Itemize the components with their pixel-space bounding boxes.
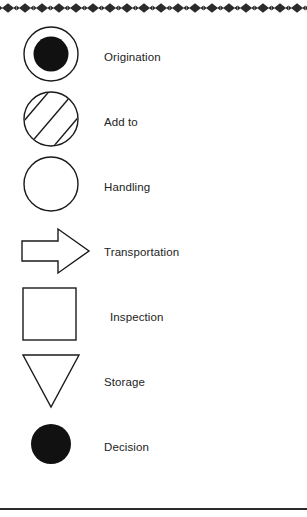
- legend-row: Storage: [0, 349, 307, 414]
- add-to-symbol: [18, 89, 96, 154]
- legend-label: Add to: [104, 89, 138, 154]
- legend-row: Decision: [0, 414, 307, 479]
- origination-symbol: [18, 24, 96, 89]
- inspection-symbol: [18, 284, 96, 349]
- legend-label: Decision: [104, 414, 149, 479]
- legend-row: Transportation: [0, 219, 307, 284]
- legend-label: Origination: [104, 24, 161, 89]
- transportation-symbol: [18, 219, 96, 284]
- bottom-rule: [0, 508, 307, 510]
- legend-row: Add to: [0, 89, 307, 154]
- decision-symbol: [18, 414, 96, 479]
- legend-label: Inspection: [110, 284, 163, 349]
- legend-label: Transportation: [104, 219, 179, 284]
- storage-symbol: [18, 349, 96, 414]
- legend-row: Handling: [0, 154, 307, 219]
- legend-row: Origination: [0, 24, 307, 89]
- decorative-top-border: [0, 0, 307, 18]
- legend-label: Storage: [104, 349, 145, 414]
- legend-label: Handling: [104, 154, 150, 219]
- handling-symbol: [18, 154, 96, 219]
- legend-row: Inspection: [0, 284, 307, 349]
- symbol-legend-list: Origination Add to: [0, 24, 307, 479]
